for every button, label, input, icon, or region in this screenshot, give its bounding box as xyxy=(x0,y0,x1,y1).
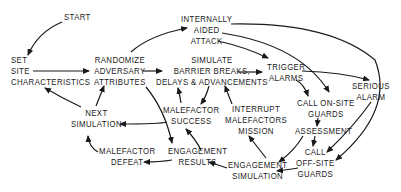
node-randomize-adversary-attributes: RANDOMIZE ADVERSARY ATTRIBUTES xyxy=(94,55,146,88)
edge-randomize-to-internally xyxy=(131,28,187,52)
node-malefactor-success: MALEFACTOR SUCCESS xyxy=(163,105,220,127)
edge-defeat-to-next xyxy=(88,136,98,152)
node-call-on-site-guards: CALL ON-SITE GUARDS xyxy=(297,98,355,120)
edge-next-to-setsite xyxy=(45,88,81,107)
node-start: START xyxy=(64,12,91,23)
node-onsite-line2: GUARDS xyxy=(297,109,355,120)
node-offsite-line1: CALL xyxy=(296,147,335,158)
node-internally-line2: AIDED xyxy=(181,25,232,36)
edge-success-to-simulate xyxy=(178,88,181,103)
node-engresults-line1: ENGAGEMENT xyxy=(168,146,227,157)
node-defeat-line1: MALEFACTOR xyxy=(99,146,156,157)
edge-simulate-to-success xyxy=(201,86,209,104)
node-next-line1: NEXT xyxy=(71,108,122,119)
node-trigger-alarms: TRIGGER ALARMS xyxy=(267,62,305,84)
node-randomize-line3: ATTRIBUTES xyxy=(94,77,146,88)
node-engagement-simulation: ENGAGEMENT SIMULATION xyxy=(228,160,287,182)
node-trigger-line1: TRIGGER xyxy=(267,62,305,73)
edge-start-to-setsite xyxy=(28,22,62,55)
edge-engsim-to-interrupt xyxy=(249,136,266,158)
node-randomize-line2: ADVERSARY xyxy=(94,66,146,77)
node-offsite-line2: OFF-SITE xyxy=(296,158,335,169)
node-start-line: START xyxy=(64,12,91,23)
node-next-line2: SIMULATION xyxy=(71,119,122,130)
node-serious-line1: SERIOUS xyxy=(352,81,390,92)
edge-next-to-randomize xyxy=(96,86,104,106)
edge-trigger-to-serious xyxy=(302,71,369,80)
node-interrupt-line2: MALEFACTORS xyxy=(225,115,287,126)
node-simulate-barrier-breaks: SIMULATE BARRIER BREAKS, DELAYS & ADVANC… xyxy=(156,55,268,88)
node-internally-aided-attack: INTERNALLY AIDED ATTACK xyxy=(181,14,232,47)
node-next-simulation: NEXT SIMULATION xyxy=(71,108,122,130)
node-set-site-line1: SET xyxy=(11,55,90,66)
node-randomize-line1: RANDOMIZE xyxy=(94,55,146,66)
node-set-site-line3: CHARACTERISTICS xyxy=(11,77,90,88)
node-interrupt-line1: INTERRUPT xyxy=(225,104,287,115)
node-engagement-results: ENGAGEMENT RESULTS xyxy=(168,146,227,168)
node-call-off-site-guards: CALL OFF-SITE GUARDS xyxy=(296,147,335,180)
flowchart-canvas: START SET SITE CHARACTERISTICS RANDOMIZE… xyxy=(0,0,401,192)
node-set-site-line2: SITE xyxy=(11,66,90,77)
node-assessment: ASSESSMENT xyxy=(295,126,352,137)
node-simulate-line1: SIMULATE xyxy=(156,55,268,66)
node-defeat-line2: DEFEAT xyxy=(99,157,156,168)
node-assessment-line: ASSESSMENT xyxy=(295,126,352,137)
node-internally-line1: INTERNALLY xyxy=(181,14,232,25)
edge-success-to-next xyxy=(120,122,167,124)
edge-interrupt-to-simulate xyxy=(225,86,232,104)
node-engsim-line2: SIMULATION xyxy=(228,171,287,182)
node-internally-line3: ATTACK xyxy=(181,36,232,47)
node-onsite-line1: CALL ON-SITE xyxy=(297,98,355,109)
node-success-line2: SUCCESS xyxy=(163,116,220,127)
node-interrupt-malefactors-mission: INTERRUPT MALEFACTORS MISSION xyxy=(225,104,287,137)
node-serious-alarm: SERIOUS ALARM xyxy=(352,81,390,103)
node-simulate-line3: DELAYS & ADVANCEMENTS xyxy=(156,77,268,88)
edge-assessment-to-offsite xyxy=(313,136,315,146)
node-offsite-line3: GUARDS xyxy=(296,169,335,180)
node-trigger-line2: ALARMS xyxy=(267,73,305,84)
node-success-line1: MALEFACTOR xyxy=(163,105,220,116)
node-interrupt-line3: MISSION xyxy=(225,126,287,137)
node-simulate-line2: BARRIER BREAKS, xyxy=(156,66,268,77)
node-malefactor-defeat: MALEFACTOR DEFEAT xyxy=(99,146,156,168)
node-set-site-characteristics: SET SITE CHARACTERISTICS xyxy=(11,55,90,88)
node-serious-line2: ALARM xyxy=(352,92,390,103)
node-engsim-line1: ENGAGEMENT xyxy=(228,160,287,171)
node-engresults-line2: RESULTS xyxy=(168,157,227,168)
